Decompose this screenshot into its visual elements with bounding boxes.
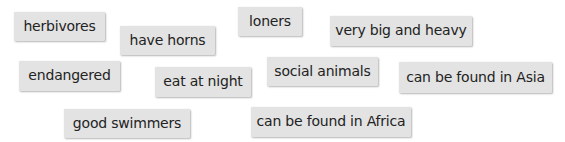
tag-label: social animals <box>274 64 370 80</box>
tag-label: herbivores <box>23 19 95 35</box>
tag-label: good swimmers <box>73 116 181 132</box>
tag-endangered[interactable]: endangered <box>19 61 120 91</box>
tag-eat-at-night[interactable]: eat at night <box>155 67 251 97</box>
word-bank: herbivores have horns loners very big an… <box>0 0 565 142</box>
tag-can-be-found-in-africa[interactable]: can be found in Africa <box>251 107 411 137</box>
tag-very-big-and-heavy[interactable]: very big and heavy <box>330 16 472 46</box>
tag-label: very big and heavy <box>335 23 466 39</box>
tag-label: eat at night <box>163 74 242 90</box>
tag-label: can be found in Africa <box>257 114 406 130</box>
tag-good-swimmers[interactable]: good swimmers <box>64 109 190 138</box>
tag-label: have horns <box>130 33 206 49</box>
tag-can-be-found-in-asia[interactable]: can be found in Asia <box>399 62 552 93</box>
tag-loners[interactable]: loners <box>238 7 302 36</box>
tag-label: loners <box>249 14 291 30</box>
tag-herbivores[interactable]: herbivores <box>14 12 105 41</box>
tag-social-animals[interactable]: social animals <box>267 57 378 86</box>
tag-label: endangered <box>28 68 110 84</box>
tag-have-horns[interactable]: have horns <box>120 26 215 55</box>
tag-label: can be found in Asia <box>406 70 545 86</box>
